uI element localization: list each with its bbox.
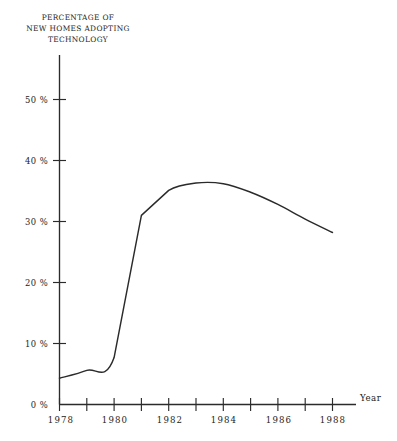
y-tick-label-30: 30 % [25,217,48,227]
line-chart-plot: 50 % 40 % 30 % 20 % 10 % 0 % 1978 1980 1… [0,0,397,441]
chart-title: PERCENTAGE OF NEW HOMES ADOPTING TECHNOL… [14,12,142,45]
y-tick-label-10: 10 % [25,339,48,349]
x-tick-label-1982: 1982 [157,415,183,425]
x-tick-label-1986: 1986 [266,415,292,425]
y-tick-label-0: 0 % [31,400,48,410]
y-tick-label-20: 20 % [25,278,48,288]
y-tick-label-40: 40 % [25,156,48,166]
x-tick-label-1978: 1978 [48,415,74,425]
chart-title-line-2: NEW HOMES ADOPTING [14,23,142,34]
x-tick-label-1984: 1984 [211,415,237,425]
chart-title-line-3: TECHNOLOGY [14,34,142,45]
chart-title-line-1: PERCENTAGE OF [14,12,142,23]
y-tick-label-50: 50 % [25,95,48,105]
x-tick-label-1980: 1980 [102,415,128,425]
chart-root: PERCENTAGE OF NEW HOMES ADOPTING TECHNOL… [0,0,397,441]
x-axis-label: Year [359,393,382,403]
x-tick-label-1988: 1988 [320,415,346,425]
adoption-curve [60,182,333,378]
